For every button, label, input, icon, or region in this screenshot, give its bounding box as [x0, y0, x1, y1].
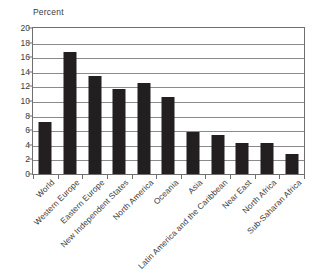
- bar-slot: [132, 28, 157, 174]
- bar: [88, 76, 101, 174]
- y-tick-label: 14: [0, 67, 30, 77]
- y-tick-label: 6: [0, 125, 30, 135]
- bar-slot: [205, 28, 230, 174]
- y-tick-label: 8: [0, 111, 30, 121]
- y-axis-title: Percent: [33, 7, 64, 17]
- bar-slot: [33, 28, 58, 174]
- x-tick-label: Latin America and the Caribbean: [136, 178, 229, 271]
- x-tick-label: Oceania: [151, 178, 179, 206]
- bar: [63, 52, 76, 174]
- y-tick-label: 12: [0, 81, 30, 91]
- y-tick-label: 18: [0, 38, 30, 48]
- y-tick-label: 16: [0, 52, 30, 62]
- bar: [285, 154, 298, 174]
- bar-series: [33, 28, 304, 174]
- bar-slot: [181, 28, 206, 174]
- bar-slot: [156, 28, 181, 174]
- bar: [137, 83, 150, 174]
- bar-slot: [82, 28, 107, 174]
- bar: [162, 97, 175, 174]
- bar: [211, 135, 224, 174]
- bar: [261, 143, 274, 174]
- bar-slot: [279, 28, 304, 174]
- bar-chart: Percent 02468101214161820 WorldWestern E…: [0, 0, 330, 278]
- bar: [187, 132, 200, 174]
- x-tick-label: Asia: [187, 178, 205, 196]
- y-tick-label: 4: [0, 140, 30, 150]
- bar: [39, 122, 52, 174]
- bar-slot: [230, 28, 255, 174]
- x-tick-label: World: [35, 178, 57, 200]
- y-tick-label: 2: [0, 154, 30, 164]
- bar-slot: [107, 28, 132, 174]
- bar-slot: [255, 28, 280, 174]
- x-axis-labels: WorldWestern EuropeEastern EuropeNew Ind…: [0, 175, 330, 278]
- bar: [113, 89, 126, 174]
- bar: [236, 143, 249, 174]
- y-tick-label: 20: [0, 23, 30, 33]
- bar-slot: [58, 28, 83, 174]
- y-tick-label: 10: [0, 96, 30, 106]
